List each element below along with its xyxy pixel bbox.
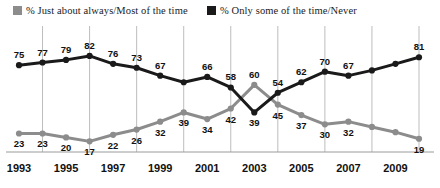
data-label: 82 [84, 40, 95, 51]
x-tick-label: 1997 [101, 162, 125, 174]
data-point [369, 67, 375, 73]
data-label: 39 [178, 117, 189, 128]
data-label: 62 [296, 66, 307, 77]
data-point [39, 130, 45, 136]
data-point [345, 73, 351, 79]
data-point [204, 74, 210, 80]
data-point [228, 105, 234, 111]
legend-swatch-black [207, 6, 216, 15]
data-point [275, 90, 281, 96]
x-tick-label: 2007 [336, 162, 360, 174]
data-point [416, 54, 422, 60]
data-label: 32 [155, 127, 166, 138]
data-label: 75 [14, 49, 25, 60]
line-chart-svg: 2323201722263239344260453730321975777982… [0, 26, 440, 158]
data-label: 79 [61, 44, 72, 55]
data-label: 81 [414, 41, 425, 52]
data-label: 26 [131, 135, 142, 146]
data-point [110, 61, 116, 67]
data-point [392, 61, 398, 67]
data-label: 20 [61, 142, 72, 153]
data-label: 70 [320, 56, 331, 67]
data-point [181, 109, 187, 115]
data-point [16, 62, 22, 68]
data-label: 66 [202, 61, 213, 72]
data-point [39, 59, 45, 65]
data-label: 30 [320, 129, 331, 140]
x-tick-label: 1993 [7, 162, 31, 174]
x-axis: 199319951997199920012003200520072009 [0, 158, 440, 188]
x-tick-label: 2009 [383, 162, 407, 174]
legend-label-black: % Only some of the time/Never [220, 5, 357, 16]
data-label: 42 [225, 114, 236, 125]
data-point [204, 116, 210, 122]
x-tick-label: 1999 [148, 162, 172, 174]
x-tick-label: 1995 [54, 162, 78, 174]
x-tick-label: 2001 [195, 162, 219, 174]
data-point [134, 65, 140, 71]
data-point [369, 124, 375, 130]
data-label: 67 [155, 60, 166, 71]
chart-legend: % Just about always/Most of the time % O… [0, 4, 440, 24]
data-point [110, 132, 116, 138]
x-tick-label: 2005 [289, 162, 313, 174]
data-point [134, 126, 140, 132]
data-label: 34 [202, 124, 213, 135]
data-label: 17 [84, 146, 95, 157]
data-point [157, 73, 163, 79]
chart-container: % Just about always/Most of the time % O… [0, 0, 440, 188]
data-point [86, 138, 92, 144]
series-line [19, 85, 419, 142]
data-point [86, 53, 92, 59]
data-point [322, 69, 328, 75]
data-label: 45 [273, 110, 284, 121]
data-label: 22 [108, 140, 119, 151]
data-point [416, 136, 422, 142]
legend-item-black: % Only some of the time/Never [207, 5, 357, 16]
legend-label-gray: % Just about always/Most of the time [26, 5, 188, 16]
data-label: 60 [249, 69, 260, 80]
data-label: 37 [296, 120, 307, 131]
data-label: 23 [14, 138, 25, 149]
data-label: 58 [225, 71, 236, 82]
data-point [157, 119, 163, 125]
data-point [345, 119, 351, 125]
data-point [275, 101, 281, 107]
data-point [322, 121, 328, 127]
data-point [392, 129, 398, 135]
data-label: 23 [37, 138, 48, 149]
data-label: 54 [273, 77, 284, 88]
data-point [298, 112, 304, 118]
data-label: 77 [37, 47, 48, 58]
data-point [298, 79, 304, 85]
legend-swatch-gray [13, 6, 22, 15]
data-point [63, 57, 69, 63]
data-point [16, 130, 22, 136]
data-point [63, 134, 69, 140]
data-label: 39 [249, 117, 260, 128]
data-label: 32 [343, 127, 354, 138]
data-label: 67 [343, 60, 354, 71]
x-tick-label: 2003 [242, 162, 266, 174]
data-point [251, 109, 257, 115]
data-point [251, 82, 257, 88]
data-label: 76 [108, 48, 119, 59]
legend-item-gray: % Just about always/Most of the time [13, 5, 188, 16]
data-label: 19 [414, 144, 425, 155]
series-line [19, 56, 419, 113]
data-point [181, 79, 187, 85]
plot-area: 2323201722263239344260453730321975777982… [0, 26, 440, 158]
data-point [228, 84, 234, 90]
data-label: 73 [131, 52, 142, 63]
